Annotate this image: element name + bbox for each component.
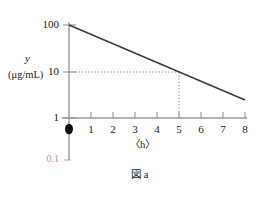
concentration-line xyxy=(69,25,245,100)
x-tick-label-6: 6 xyxy=(194,124,208,135)
x-tick-label-4: 4 xyxy=(150,124,164,135)
x-tick-label-1: 1 xyxy=(84,124,98,135)
y-axis-unit-label: (μg/mL) xyxy=(8,70,43,81)
x-tick-label-3: 3 xyxy=(128,124,142,135)
figure-caption: 図 a xyxy=(131,170,148,181)
y-tick-label-0-1: 0.1 xyxy=(31,154,59,164)
y-tick-label-1: 1 xyxy=(31,112,59,123)
x-axis-title: 〈h〉 xyxy=(130,140,155,151)
x-tick-label-8: 8 xyxy=(238,124,252,135)
y-tick-label-100: 100 xyxy=(31,19,59,30)
figure-container: 100 10 1 0.1 y (μg/mL) 1 2 3 4 5 6 7 8 〈… xyxy=(0,0,263,197)
origin-dot-marker xyxy=(65,124,73,134)
x-tick-label-2: 2 xyxy=(106,124,120,135)
x-tick-label-7: 7 xyxy=(216,124,230,135)
y-axis-title: y xyxy=(25,53,30,64)
x-tick-label-5: 5 xyxy=(172,124,186,135)
